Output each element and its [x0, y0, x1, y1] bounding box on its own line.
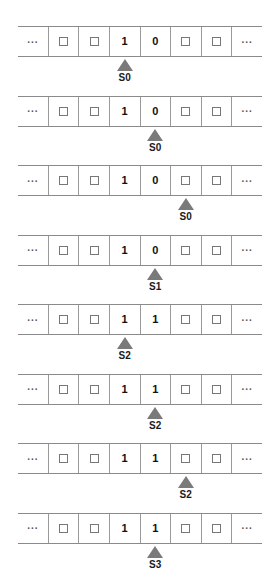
tape-cell-symbol[interactable]: 1: [110, 444, 141, 473]
blank-square-icon: [181, 454, 190, 463]
tape-cell-ellipsis[interactable]: ...: [18, 305, 49, 334]
tape-cell-blank[interactable]: [202, 375, 233, 404]
tape-cell-ellipsis[interactable]: ...: [232, 375, 262, 404]
tape-cell-ellipsis[interactable]: ...: [18, 236, 49, 265]
tape-cell-blank[interactable]: [79, 27, 110, 56]
tape-step-7: ...11...S2: [0, 443, 277, 513]
tape-cell-blank[interactable]: [79, 236, 110, 265]
tape-cell-blank[interactable]: [49, 27, 80, 56]
tape-row: ...11...: [18, 374, 262, 405]
tape-cell-blank[interactable]: [202, 27, 233, 56]
tape-cell-blank[interactable]: [171, 305, 202, 334]
tape-cell-blank[interactable]: [49, 305, 80, 334]
blank-square-icon: [59, 246, 68, 255]
tape-cell-blank[interactable]: [171, 27, 202, 56]
tape-cell-symbol[interactable]: 1: [110, 166, 141, 195]
tape-cell-blank[interactable]: [171, 236, 202, 265]
tape-cell-ellipsis[interactable]: ...: [18, 444, 49, 473]
tape-cell-symbol[interactable]: 0: [141, 27, 172, 56]
tape-cell-symbol[interactable]: 1: [110, 305, 141, 334]
tape-cell-blank[interactable]: [171, 97, 202, 126]
ellipsis-icon: ...: [27, 313, 38, 323]
blank-square-icon: [59, 176, 68, 185]
tape-cell-blank[interactable]: [202, 305, 233, 334]
machine-state-label: S2: [171, 489, 201, 500]
tape-cell-ellipsis[interactable]: ...: [232, 305, 262, 334]
tape-cell-blank[interactable]: [79, 97, 110, 126]
machine-state-label: S3: [140, 559, 170, 570]
tape-cell-symbol[interactable]: 1: [110, 514, 141, 543]
blank-square-icon: [59, 385, 68, 394]
blank-square-icon: [212, 385, 221, 394]
tape-cell-ellipsis[interactable]: ...: [18, 514, 49, 543]
blank-square-icon: [90, 315, 99, 324]
tape-cell-ellipsis[interactable]: ...: [18, 375, 49, 404]
blank-square-icon: [212, 524, 221, 533]
tape-cell-symbol[interactable]: 0: [141, 236, 172, 265]
tape-cell-symbol[interactable]: 1: [110, 97, 141, 126]
ellipsis-icon: ...: [27, 104, 38, 114]
tape-cell-blank[interactable]: [79, 375, 110, 404]
tape-cell-blank[interactable]: [49, 166, 80, 195]
ellipsis-icon: ...: [242, 521, 253, 531]
tape-cell-blank[interactable]: [171, 375, 202, 404]
tape-cell-symbol[interactable]: 1: [141, 375, 172, 404]
tape-cell-blank[interactable]: [49, 97, 80, 126]
tape-cell-blank[interactable]: [202, 444, 233, 473]
tape-cell-ellipsis[interactable]: ...: [232, 27, 262, 56]
tape-cell-ellipsis[interactable]: ...: [232, 514, 262, 543]
tape-symbol: 1: [152, 523, 158, 534]
tape-cell-symbol[interactable]: 0: [141, 97, 172, 126]
blank-square-icon: [181, 176, 190, 185]
tape-cell-blank[interactable]: [171, 444, 202, 473]
tape-cell-blank[interactable]: [49, 375, 80, 404]
tape-cell-blank[interactable]: [171, 166, 202, 195]
tape-cell-blank[interactable]: [79, 305, 110, 334]
tape-cell-ellipsis[interactable]: ...: [18, 27, 49, 56]
machine-state-label: S0: [171, 211, 201, 222]
tape-cell-ellipsis[interactable]: ...: [232, 166, 262, 195]
tape-cell-blank[interactable]: [202, 166, 233, 195]
tape-row: ...10...: [18, 235, 262, 266]
tape-head: S3: [140, 546, 170, 570]
tape-symbol: 1: [122, 523, 128, 534]
tape-cell-blank[interactable]: [49, 444, 80, 473]
ellipsis-icon: ...: [27, 35, 38, 45]
tape-symbol: 1: [122, 384, 128, 395]
tape-head: S0: [140, 129, 170, 153]
tape-cell-ellipsis[interactable]: ...: [232, 236, 262, 265]
tape-cell-ellipsis[interactable]: ...: [18, 97, 49, 126]
ellipsis-icon: ...: [242, 452, 253, 462]
tape-cell-symbol[interactable]: 1: [110, 375, 141, 404]
tape-cell-symbol[interactable]: 0: [141, 166, 172, 195]
tape-cell-ellipsis[interactable]: ...: [232, 444, 262, 473]
tape-cell-blank[interactable]: [49, 514, 80, 543]
tape-cell-blank[interactable]: [79, 444, 110, 473]
tape-cell-blank[interactable]: [79, 166, 110, 195]
head-pointer-up-icon: [178, 476, 194, 488]
head-pointer-up-icon: [147, 268, 163, 280]
tape-cell-blank[interactable]: [202, 97, 233, 126]
tape-cell-symbol[interactable]: 1: [141, 305, 172, 334]
tape-cell-ellipsis[interactable]: ...: [18, 166, 49, 195]
tape-cell-blank[interactable]: [202, 514, 233, 543]
tape-cell-symbol[interactable]: 1: [110, 27, 141, 56]
tape-head: S2: [110, 337, 140, 361]
tape-step-4: ...10...S1: [0, 235, 277, 305]
tape-cell-symbol[interactable]: 1: [141, 514, 172, 543]
tape-cell-blank[interactable]: [49, 236, 80, 265]
ellipsis-icon: ...: [242, 313, 253, 323]
tape-symbol: 1: [122, 36, 128, 47]
tape-cell-blank[interactable]: [202, 236, 233, 265]
tape-symbol: 1: [122, 453, 128, 464]
tape-symbol: 1: [122, 245, 128, 256]
tape-cell-blank[interactable]: [79, 514, 110, 543]
tape-cell-ellipsis[interactable]: ...: [232, 97, 262, 126]
machine-state-label: S1: [140, 281, 170, 292]
tape-cell-symbol[interactable]: 1: [141, 444, 172, 473]
tape-row: ...11...: [18, 513, 262, 544]
tape-cell-blank[interactable]: [171, 514, 202, 543]
tape-step-6: ...11...S2: [0, 374, 277, 444]
blank-square-icon: [212, 454, 221, 463]
tape-cell-symbol[interactable]: 1: [110, 236, 141, 265]
